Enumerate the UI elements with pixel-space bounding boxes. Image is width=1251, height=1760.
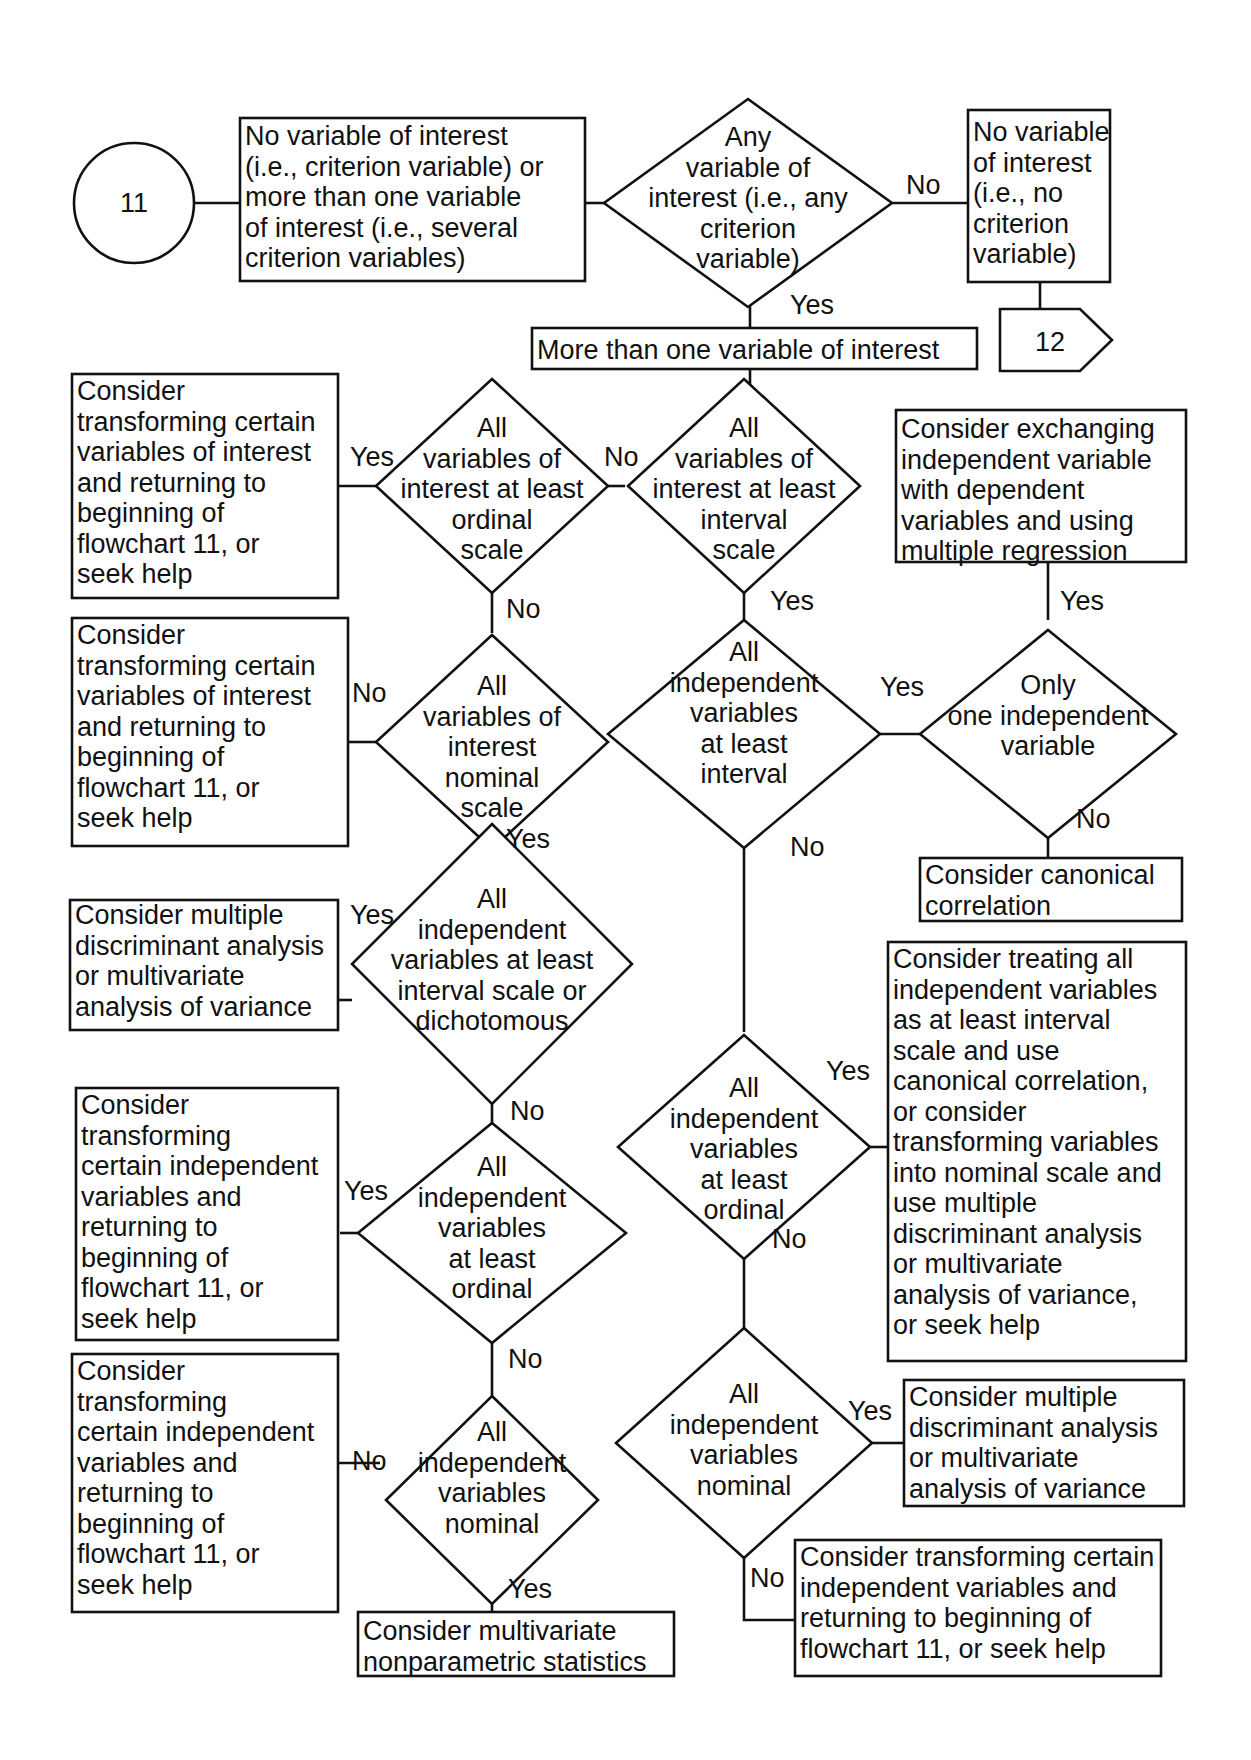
edge-label-dich-yes: Yes [350, 900, 394, 930]
off-page-connector-label: 12 [1035, 327, 1065, 357]
edge-label-iv-ord-left-yes: Yes [344, 1176, 388, 1206]
edge-label-iv-nom-right-yes: Yes [848, 1396, 892, 1426]
decision-text-line: nominal [445, 1509, 540, 1539]
box-text-line: Consider [77, 620, 185, 650]
decision-text-line: All [729, 1379, 759, 1409]
edge-label-iv-nom-left-yes: Yes [508, 1574, 552, 1604]
box-text-line: criterion [973, 209, 1069, 239]
box-text-line: independent variable [901, 445, 1152, 475]
decision-text-line: variable of [686, 153, 811, 183]
process-box-b-transform-1: Considertransforming certainvariables of… [72, 374, 338, 598]
box-text-line: seek help [77, 559, 193, 589]
edge-label-ordinal-no-down: No [506, 594, 541, 624]
box-text-line: canonical correlation, [893, 1066, 1148, 1096]
decision-text-line: independent [670, 668, 819, 698]
decision-text-line: variable) [696, 244, 800, 274]
box-text-line: variables of interest [77, 681, 312, 711]
decision-text-line: ordinal [451, 1274, 532, 1304]
box-text-line: certain independent [81, 1151, 319, 1181]
edge-label-iv-interval-no: No [790, 832, 825, 862]
decision-d-iv-nominal-right: Allindependentvariablesnominal [616, 1328, 872, 1558]
process-box-b-exchange: Consider exchangingindependent variablew… [896, 410, 1186, 566]
decision-text-line: at least [700, 1165, 788, 1195]
box-text-line: Consider multiple [75, 900, 284, 930]
edge-label-iv-interval-yes: Yes [880, 672, 924, 702]
process-box-b-nonparam: Consider multivariatenonparametric stati… [358, 1612, 674, 1677]
box-text-line: returning to beginning of [800, 1603, 1092, 1633]
edge-label-iv-ord-right-no: No [772, 1224, 807, 1254]
process-box-b-mda-2: Consider multiplediscriminant analysisor… [904, 1380, 1184, 1506]
decision-text-line: All [477, 671, 507, 701]
decision-text-line: interest (i.e., any [648, 183, 848, 213]
decision-text-line: interval [700, 505, 787, 535]
process-box-b-canonical: Consider canonicalcorrelation [920, 858, 1182, 921]
box-text-line: use multiple [893, 1188, 1037, 1218]
box-text-line: beginning of [77, 742, 225, 772]
decision-text-line: Any [725, 122, 772, 152]
box-text-line: variable) [973, 239, 1077, 269]
edge-label-ordinal-yes: Yes [350, 442, 394, 472]
decision-text-line: ordinal [451, 505, 532, 535]
box-text-line: flowchart 11, or [77, 529, 260, 559]
edge-label-iv-nom-right-no: No [750, 1563, 785, 1593]
decision-text-line: Only [1020, 670, 1076, 700]
box-text-line: Consider transforming certain [800, 1542, 1154, 1572]
process-box-b-mda-1: Consider multiplediscriminant analysisor… [70, 900, 338, 1030]
box-text-line: or multivariate [893, 1249, 1063, 1279]
box-text-line: Consider multiple [909, 1382, 1118, 1412]
box-text-line: variables and [81, 1182, 242, 1212]
start-connector-11: 11 [74, 143, 194, 263]
decision-text-line: independent [418, 1448, 567, 1478]
decision-text-line: dichotomous [415, 1006, 568, 1036]
box-text-line: transforming [77, 1387, 227, 1417]
decision-text-line: variables [438, 1478, 546, 1508]
box-text-line: transforming [81, 1121, 231, 1151]
decision-text-line: variables at least [391, 945, 594, 975]
box-text-line: seek help [77, 803, 193, 833]
decision-text-line: interest at least [652, 474, 836, 504]
edge-label-nominal-yes: Yes [506, 824, 550, 854]
box-text-line: flowchart 11, or [77, 1539, 260, 1569]
box-text-line: independent variables [893, 975, 1157, 1005]
box-text-line: discriminant analysis [893, 1219, 1142, 1249]
decision-d-iv-interval-dich: Allindependentvariables at leastinterval… [352, 824, 632, 1104]
process-box-b-transform-4: Considertransformingcertain independentv… [72, 1354, 338, 1612]
edge-label-iv-ord-right-yes: Yes [826, 1056, 870, 1086]
decision-text-line: independent [418, 915, 567, 945]
box-text-line: and returning to [77, 468, 266, 498]
box-text-line: independent variables and [800, 1573, 1117, 1603]
box-text-line: (i.e., criterion variable) or [245, 152, 544, 182]
decision-text-line: criterion [700, 214, 796, 244]
box-text-line: Consider [77, 1356, 185, 1386]
edge-label-nominal-no: No [352, 678, 387, 708]
process-box-b-transform-2: Considertransforming certainvariables of… [72, 618, 348, 846]
box-text-line: Consider treating all [893, 944, 1133, 974]
decision-text-line: one independent [947, 701, 1149, 731]
decision-d-iv-ordinal-left: Allindependentvariablesat leastordinal [358, 1123, 626, 1343]
decision-text-line: at least [448, 1244, 536, 1274]
decision-text-line: scale [460, 535, 523, 565]
decision-text-line: interval [700, 759, 787, 789]
decision-d-iv-nominal-left: Allindependentvariablesnominal [386, 1396, 598, 1604]
decision-text-line: All [477, 413, 507, 443]
process-box-b-more-than-one: More than one variable of interest [532, 328, 977, 369]
process-box-b-treating: Consider treating allindependent variabl… [888, 942, 1186, 1361]
box-text-line: or consider [893, 1097, 1027, 1127]
decision-text-line: independent [670, 1410, 819, 1440]
start-connector-label: 11 [120, 188, 148, 218]
box-text-line: variables and [77, 1448, 238, 1478]
process-box-b-transform-3: Considertransformingcertain independentv… [76, 1088, 338, 1340]
box-text-line: analysis of variance [909, 1474, 1146, 1504]
decision-text-line: variables [690, 698, 798, 728]
decision-d-only-one: Onlyone independentvariable [920, 630, 1176, 838]
box-text-line: as at least interval [893, 1005, 1111, 1035]
decision-text-line: variables of [423, 702, 562, 732]
decision-text-line: variables [438, 1213, 546, 1243]
box-text-line: beginning of [77, 498, 225, 528]
box-text-line: discriminant analysis [909, 1413, 1158, 1443]
box-text-line: returning to [77, 1478, 214, 1508]
decision-d-interval: Allvariables ofinterest at leastinterval… [628, 379, 860, 593]
decision-text-line: nominal [445, 763, 540, 793]
process-box-b-no-interest: No variableof interest(i.e., nocriterion… [968, 110, 1110, 282]
box-text-line: of interest [973, 148, 1092, 178]
